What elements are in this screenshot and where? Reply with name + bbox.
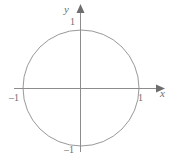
y-axis-tick-label-positive-one: 1 xyxy=(70,17,75,27)
y-axis-label: y xyxy=(64,4,69,15)
y-axis-tick-label-negative-one: –1 xyxy=(64,145,74,155)
unit-circle-plot xyxy=(0,0,173,166)
y-axis-arrowhead xyxy=(77,4,85,13)
unit-circle-figure: 1 –1 1 –1 y x xyxy=(0,0,173,166)
x-axis-label: x xyxy=(160,88,165,99)
x-axis-tick-label-negative-one: –1 xyxy=(9,93,19,103)
x-axis-tick-label-positive-one: 1 xyxy=(138,93,143,103)
